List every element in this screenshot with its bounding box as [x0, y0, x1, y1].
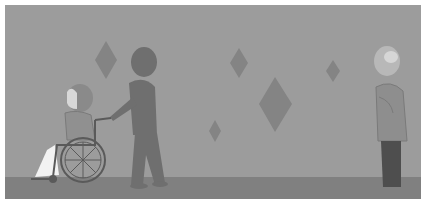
diamond-shape [230, 48, 248, 78]
diamond-shape [209, 120, 221, 142]
diamond-shape [326, 60, 340, 82]
scene-svg [5, 5, 421, 199]
elderly-man-figure [374, 46, 407, 187]
illustration-frame [5, 5, 421, 199]
diamond-shape [95, 41, 117, 79]
caregiver-figure [110, 47, 168, 189]
diamond-shape [259, 77, 292, 132]
